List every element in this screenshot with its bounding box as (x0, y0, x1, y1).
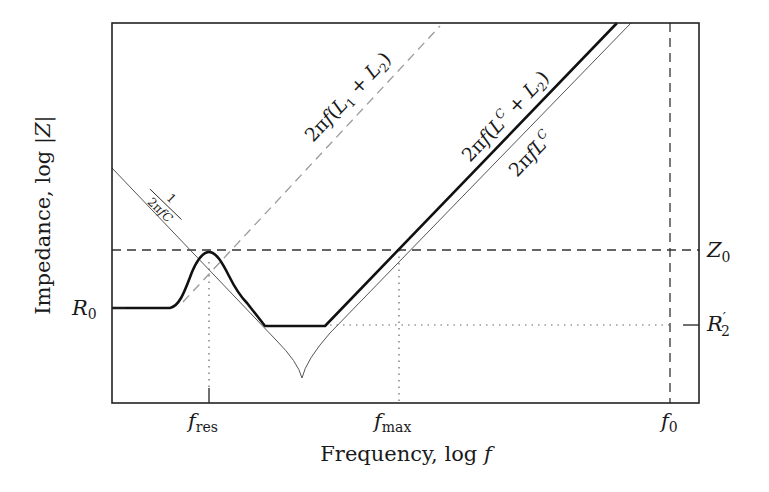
f0-label: f0 (659, 409, 678, 435)
plot-frame (112, 23, 699, 403)
fres-label: fres (186, 409, 218, 435)
impedance-frequency-diagram: 2πf(L1 + L2) 2πf(LC + L2) 2πfLC 1 2πfC R… (0, 0, 769, 492)
l1-l2-asymptote-label: 2πf(L1 + L2) (300, 47, 397, 148)
r0-label: R0 (71, 296, 97, 322)
r2-prime-label: R′2 (706, 310, 730, 339)
y-axis-title: Impedance, log |Z| (31, 115, 56, 314)
x-axis-title: Frequency, log f (320, 442, 495, 466)
capacitive-reactance-label: 1 2πfC (139, 178, 191, 230)
z0-label: Z0 (706, 238, 731, 265)
fmax-label: fmax (372, 409, 411, 435)
capacitive-reactance-line (112, 168, 302, 378)
